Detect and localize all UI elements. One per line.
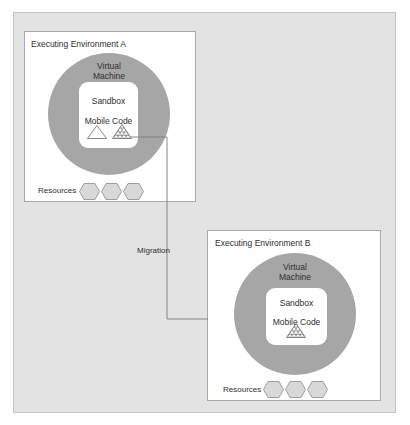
diagram-canvas: Executing Environment A Virtual Machine … [0, 0, 410, 425]
migration-connector-line [0, 0, 410, 425]
migration-label: Migration [137, 246, 170, 255]
